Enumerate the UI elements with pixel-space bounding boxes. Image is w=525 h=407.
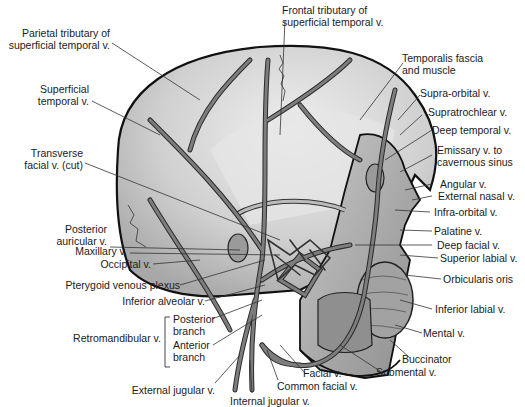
label-line: Transverse	[24, 147, 83, 159]
label-line: Frontal tributary of	[282, 4, 383, 16]
anatomy-figure: Parietal tributary of superficial tempor…	[0, 0, 525, 407]
label-posterior-auricular: Posterior auricular v.	[56, 223, 107, 247]
label-temporalis: Temporalis fascia and muscle	[402, 52, 483, 76]
label-line: Anterior	[173, 339, 210, 351]
label-buccinator: Buccinator	[402, 353, 452, 365]
label-retromandibular: Retromandibular v.	[73, 332, 161, 344]
label-occipital: Occipital v.	[100, 258, 151, 270]
label-line: Emissary v. to	[437, 144, 513, 156]
label-anterior-branch: Anterior branch	[173, 339, 210, 363]
label-maxillary: Maxillary v.	[75, 245, 127, 257]
label-pterygoid: Pterygoid venous plexus	[66, 279, 180, 291]
label-external-jugular: External jugular v.	[132, 384, 215, 396]
label-internal-jugular: Internal jugular v.	[230, 395, 310, 407]
label-superficial-temporal: Superficial temporal v.	[38, 83, 89, 107]
label-common-facial: Common facial v.	[277, 380, 357, 392]
label-supra-orbital: Supra-orbital v.	[420, 87, 490, 99]
label-submental: Submental v.	[376, 366, 437, 378]
label-posterior-branch: Posterior branch	[173, 313, 215, 337]
label-deep-temporal: Deep temporal v.	[432, 124, 511, 136]
label-facial: Facial v.	[303, 367, 341, 379]
label-line: Posterior	[173, 313, 215, 325]
label-emissary: Emissary v. to cavernous sinus	[437, 144, 513, 168]
label-line: branch	[173, 325, 215, 337]
label-line: superficial temporal v.	[9, 39, 110, 51]
label-line: branch	[173, 351, 210, 363]
label-deep-facial: Deep facial v.	[437, 239, 500, 251]
label-mental: Mental v.	[423, 327, 465, 339]
label-parietal-tributary: Parietal tributary of superficial tempor…	[9, 27, 110, 51]
label-palatine: Palatine v.	[434, 225, 482, 237]
label-orbicularis: Orbicularis oris	[443, 273, 513, 285]
label-infra-orbital: Infra-orbital v.	[434, 206, 497, 218]
label-line: Parietal tributary of	[9, 27, 110, 39]
label-angular: Angular v.	[440, 178, 487, 190]
label-external-nasal: External nasal v.	[438, 190, 515, 202]
label-supratrochlear: Supratrochlear v.	[428, 106, 507, 118]
label-transverse-facial: Transverse facial v. (cut)	[24, 147, 83, 171]
label-frontal-tributary: Frontal tributary of superficial tempora…	[282, 4, 383, 28]
label-line: Superficial	[38, 83, 89, 95]
retromandibular-bracket	[165, 317, 170, 367]
label-inferior-alveolar: Inferior alveolar v.	[122, 295, 205, 307]
label-superior-labial: Superior labial v.	[440, 252, 517, 264]
label-line: superficial temporal v.	[282, 16, 383, 28]
label-line: and muscle	[402, 64, 483, 76]
label-line: temporal v.	[38, 95, 89, 107]
label-line: facial v. (cut)	[24, 159, 83, 171]
label-inferior-labial: Inferior labial v.	[435, 303, 505, 315]
label-line: Temporalis fascia	[402, 52, 483, 64]
label-line: cavernous sinus	[437, 156, 513, 168]
label-line: Posterior	[56, 223, 107, 235]
